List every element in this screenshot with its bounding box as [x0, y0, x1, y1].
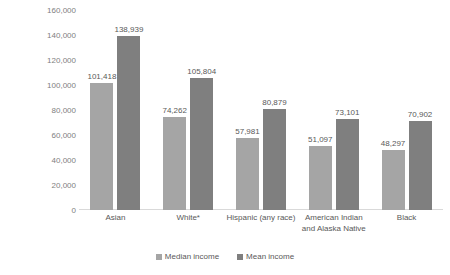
bar[interactable]: [90, 83, 113, 210]
legend-item[interactable]: Median income: [156, 252, 219, 261]
legend-item[interactable]: Mean income: [237, 252, 294, 261]
bar[interactable]: [236, 138, 259, 210]
chart-legend: Median incomeMean income: [0, 252, 450, 261]
bar-column[interactable]: 101,418: [90, 83, 113, 210]
bar-column[interactable]: 48,297: [382, 150, 405, 210]
bar-value-label: 57,981: [235, 127, 259, 136]
y-axis-tick: 40,000: [18, 156, 76, 165]
y-axis-tick: 20,000: [18, 181, 76, 190]
legend-label: Median income: [165, 252, 219, 261]
y-axis-tick: 60,000: [18, 131, 76, 140]
x-axis-category-label: Black: [370, 213, 443, 224]
bar[interactable]: [336, 119, 359, 210]
plot-area: 101,418138,93974,262105,80457,98180,8795…: [79, 10, 443, 210]
x-axis-category-labels: AsianWhite*Hispanic (any race)American I…: [79, 213, 443, 243]
x-axis-category-label: American Indianand Alaska Native: [297, 213, 370, 234]
x-axis-category-label: White*: [152, 213, 225, 224]
bar-group: 57,98180,879: [225, 10, 298, 210]
x-axis-category-label: Hispanic (any race): [225, 213, 298, 224]
bar-value-label: 105,804: [187, 67, 216, 76]
bar-value-label: 73,101: [335, 108, 359, 117]
bar-group: 48,29770,902: [370, 10, 443, 210]
x-axis-category-label-line: American Indian: [297, 213, 370, 224]
legend-label: Mean income: [246, 252, 294, 261]
bar-group: 101,418138,939: [79, 10, 152, 210]
y-axis-tick-labels: 160,000140,000120,000100,00080,00060,000…: [18, 10, 76, 210]
y-axis-tick: 100,000: [18, 81, 76, 90]
x-axis-category-label-line: White*: [152, 213, 225, 224]
bar-value-label: 70,902: [408, 110, 432, 119]
bar-column[interactable]: 138,939: [117, 36, 140, 210]
bar[interactable]: [117, 36, 140, 210]
bar[interactable]: [263, 109, 286, 210]
bar-column[interactable]: 57,981: [236, 138, 259, 210]
bar-value-label: 80,879: [262, 98, 286, 107]
bar-column[interactable]: 73,101: [336, 119, 359, 210]
bar-group: 74,262105,804: [152, 10, 225, 210]
bar-value-label: 48,297: [381, 139, 405, 148]
y-axis-tick: 160,000: [18, 6, 76, 15]
bar[interactable]: [190, 78, 213, 210]
legend-swatch-icon: [237, 254, 243, 260]
x-axis-category-label-line: Hispanic (any race): [225, 213, 298, 224]
y-axis-tick: 120,000: [18, 56, 76, 65]
bar-column[interactable]: 105,804: [190, 78, 213, 210]
x-axis-category-label-line: Black: [370, 213, 443, 224]
bar-value-label: 101,418: [87, 72, 116, 81]
y-axis-tick: 80,000: [18, 106, 76, 115]
bar-value-label: 138,939: [114, 25, 143, 34]
bar[interactable]: [309, 146, 332, 210]
bar[interactable]: [163, 117, 186, 210]
legend-swatch-icon: [156, 254, 162, 260]
bar-column[interactable]: 74,262: [163, 117, 186, 210]
bar-column[interactable]: 51,097: [309, 146, 332, 210]
bar-chart: Dollars 160,000140,000120,000100,00080,0…: [0, 0, 450, 275]
y-axis-tick: 0: [18, 206, 76, 215]
bar-column[interactable]: 80,879: [263, 109, 286, 210]
bar-group: 51,09773,101: [297, 10, 370, 210]
x-axis-category-label: Asian: [79, 213, 152, 224]
bar-column[interactable]: 70,902: [409, 121, 432, 210]
y-axis-tick: 140,000: [18, 31, 76, 40]
bar-value-label: 74,262: [162, 106, 186, 115]
x-axis-category-label-line: Asian: [79, 213, 152, 224]
x-axis-category-label-line: and Alaska Native: [297, 224, 370, 235]
bar-value-label: 51,097: [308, 135, 332, 144]
bar[interactable]: [409, 121, 432, 210]
bar[interactable]: [382, 150, 405, 210]
